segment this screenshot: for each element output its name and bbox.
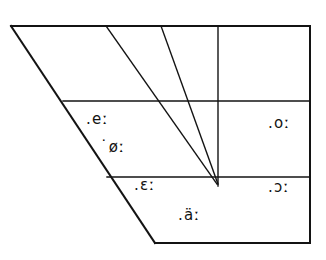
vowel-quadrilateral-figure: .eː ˙øː .oː .ɛː .ɔː .äː — [0, 0, 326, 260]
vowel-label-open-back-rounded: .ɔː — [268, 180, 290, 195]
vowel-label-close-front-rounded: ˙øː — [100, 140, 125, 155]
vowel-label-close-front: .eː — [86, 112, 109, 127]
chart-line-left-edge — [11, 26, 155, 243]
vowel-label-open-front: .ɛː — [134, 178, 156, 193]
vowel-label-open-central: .äː — [178, 208, 201, 223]
chart-line-converging-line-1 — [106, 26, 217, 184]
chart-line-converging-line-2 — [161, 26, 218, 184]
vowel-label-close-back-rounded: .oː — [268, 116, 291, 131]
